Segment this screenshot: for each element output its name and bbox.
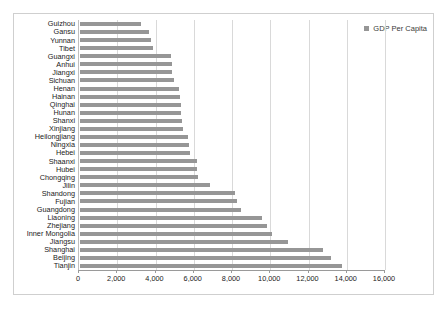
bar-yunnan xyxy=(80,38,151,42)
x-tick-label-12000: 12,000 xyxy=(296,275,318,282)
category-label-guangxi: Guangxi xyxy=(48,53,75,60)
bar-shanghai xyxy=(80,248,323,252)
x-tick-mark xyxy=(155,270,156,273)
gridline xyxy=(347,20,348,270)
x-tick-mark xyxy=(231,270,232,273)
plot-area xyxy=(78,20,385,270)
bar-chongqing xyxy=(80,175,198,179)
bar-liaoning xyxy=(80,216,262,220)
bar-guangxi xyxy=(80,54,171,58)
bar-heilongjiang xyxy=(80,135,188,139)
bar-shandong xyxy=(80,191,235,195)
plot-wrapper: GuizhouGansuYunnanTibetGuangxiAnhuiJiang… xyxy=(14,20,435,270)
x-tick-mark xyxy=(78,270,79,273)
x-tick-mark xyxy=(308,270,309,273)
category-label-anhui: Anhui xyxy=(56,61,75,68)
bar-inner-mongolia xyxy=(80,232,272,236)
bar-fujian xyxy=(80,199,237,203)
bar-zhejiang xyxy=(80,224,267,228)
bar-hubei xyxy=(80,167,197,171)
x-tick-label-4000: 4,000 xyxy=(145,275,163,282)
bar-jilin xyxy=(80,183,210,187)
bar-hainan xyxy=(80,95,180,99)
bar-guangdong xyxy=(80,208,241,212)
x-tick-label-6000: 6,000 xyxy=(184,275,202,282)
category-label-chongqing: Chongqing xyxy=(40,174,75,181)
bar-beijing xyxy=(80,256,331,260)
bar-xinjiang xyxy=(80,127,183,131)
gridline xyxy=(309,20,310,270)
x-tick-label-8000: 8,000 xyxy=(222,275,240,282)
chart-frame: GDP Per Capita GuizhouGansuYunnanTibetGu… xyxy=(13,13,434,295)
category-label-hubei: Hubei xyxy=(56,166,75,173)
x-tick-label-2000: 2,000 xyxy=(107,275,125,282)
category-label-jiangxi: Jiangxi xyxy=(52,69,75,76)
bar-qinghai xyxy=(80,103,181,107)
gridline xyxy=(385,20,386,270)
x-tick-mark xyxy=(269,270,270,273)
category-label-tianjin: Tianjin xyxy=(54,262,75,269)
category-label-shandong: Shandong xyxy=(42,190,75,197)
category-label-tibet: Tibet xyxy=(59,45,75,52)
bar-hebei xyxy=(80,151,190,155)
bar-jiangsu xyxy=(80,240,288,244)
category-axis-labels: GuizhouGansuYunnanTibetGuangxiAnhuiJiang… xyxy=(14,20,78,270)
x-tick-label-14000: 14,000 xyxy=(335,275,357,282)
bar-guizhou xyxy=(80,22,141,26)
x-tick-label-0: 0 xyxy=(76,275,80,282)
x-tick-mark xyxy=(346,270,347,273)
bar-shanxi xyxy=(80,119,182,123)
bar-sichuan xyxy=(80,78,174,82)
bar-tianjin xyxy=(80,264,342,268)
x-tick-label-16000: 16,000 xyxy=(373,275,395,282)
x-tick-mark xyxy=(193,270,194,273)
category-label-shaanxi: Shaanxi xyxy=(49,158,75,165)
category-label-gansu: Gansu xyxy=(54,28,76,35)
bar-tibet xyxy=(80,46,153,50)
bar-gansu xyxy=(80,30,149,34)
x-tick-mark xyxy=(384,270,385,273)
category-label-jilin: Jilin xyxy=(62,182,75,189)
x-tick-mark xyxy=(116,270,117,273)
category-label-yunnan: Yunnan xyxy=(50,37,75,44)
x-tick-label-10000: 10,000 xyxy=(258,275,280,282)
bar-anhui xyxy=(80,62,172,66)
bar-shaanxi xyxy=(80,159,197,163)
bar-jiangxi xyxy=(80,70,172,74)
category-label-hebei: Hebei xyxy=(56,149,75,156)
bar-henan xyxy=(80,87,179,91)
bar-hunan xyxy=(80,111,181,115)
bar-ningxia xyxy=(80,143,189,147)
